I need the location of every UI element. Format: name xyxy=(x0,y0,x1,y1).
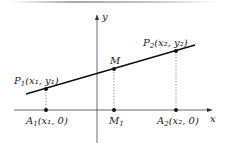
y-axis-label: y xyxy=(101,11,108,22)
point-p2 xyxy=(174,49,178,53)
label-a2: A2(x₂, 0) xyxy=(156,115,199,128)
point-m1 xyxy=(112,108,116,112)
label-p2: P2(x₂, y₂) xyxy=(142,37,188,50)
point-m xyxy=(112,67,116,71)
coordinate-diagram: y x P1(x₁, y₁) M P2(x₂, y₂) A1(x₁, 0) M1… xyxy=(0,0,225,153)
line-p1-p2 xyxy=(26,45,195,94)
point-p1 xyxy=(44,87,48,91)
point-a2 xyxy=(174,108,178,112)
point-a1 xyxy=(44,108,48,112)
label-m1: M1 xyxy=(108,115,124,128)
x-axis-arrow-icon xyxy=(207,108,213,112)
x-axis-label: x xyxy=(210,113,216,124)
y-axis-arrow-icon xyxy=(95,14,99,20)
top-rule xyxy=(10,1,218,3)
label-a1: A1(x₁, 0) xyxy=(25,115,68,128)
label-m: M xyxy=(109,55,121,66)
